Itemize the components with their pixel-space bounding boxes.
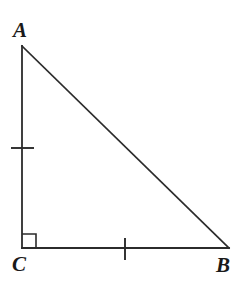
triangle-drawing-canvas <box>0 0 243 292</box>
vertex-label-c: C <box>12 254 26 275</box>
vertex-label-b: B <box>216 255 230 276</box>
geometry-figure: A C B <box>0 0 243 292</box>
vertex-label-a: A <box>13 20 27 41</box>
